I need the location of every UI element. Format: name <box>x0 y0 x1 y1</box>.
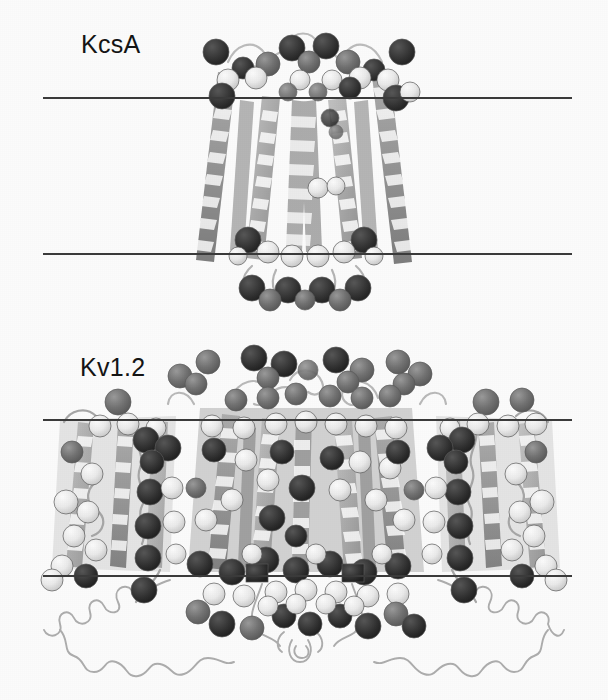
kv12-structure-graphic <box>0 340 608 700</box>
kcsa-structure-graphic <box>0 0 608 340</box>
panel-kv12: Kv1.2 <box>0 340 608 700</box>
panel-kcsa: KcsA <box>0 0 608 340</box>
membrane-line-bottom-kcsa <box>43 253 572 255</box>
membrane-line-top-kv12 <box>43 419 572 421</box>
figure-root: KcsA <box>0 0 608 700</box>
membrane-line-top-kcsa <box>43 97 572 99</box>
membrane-line-bottom-kv12 <box>43 575 572 577</box>
